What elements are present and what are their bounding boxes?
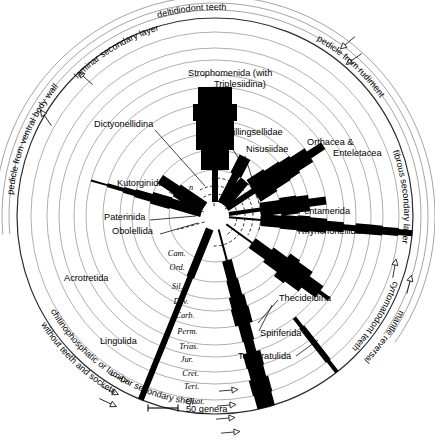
dashed-lineage-link-3 (177, 222, 204, 230)
taxon-label-lingulida: Lingulida (100, 336, 138, 346)
period-labels-group: Cam.Ord.Sil.Dev.Carb.Perm.Trias.Jur.Cret… (168, 249, 205, 407)
marker-bot-4-arrow-icon (221, 428, 240, 436)
marker-botleft-3-arrow-icon (98, 396, 118, 409)
period-label-cam: Cam. (168, 249, 186, 258)
annotation-without-teeth-sockets: without teeth and sockets (39, 319, 119, 396)
curved-annotations-group: deltidiodont teethlaminar secondary laye… (5, 2, 412, 407)
taxon-label-acrotretida: Acrotretida (64, 273, 109, 283)
diagram-canvas: deltidiodont teethlaminar secondary laye… (0, 0, 435, 446)
taxon-label-pentamerida: Pentamerida (298, 206, 351, 216)
taxon-label-strophomenida-line2: Triplesiidina) (214, 79, 266, 89)
period-label-sil: Sil. (172, 282, 183, 291)
taxon-label-spiriferida: Spiriferida (260, 328, 302, 338)
taxon-label-strophomenida: Strophomenida (with (188, 68, 272, 78)
annotation-laminar-secondary-layer: laminar secondary layer (72, 23, 160, 81)
annotation-deltidiodont-teeth: deltidiodont teeth (156, 2, 226, 20)
taxon-label-paterinida: Paterinida (104, 212, 146, 222)
center-symbol-group: n (189, 183, 193, 192)
marker-right-2-arrow-icon (404, 274, 414, 294)
period-label-tert: Tert. (184, 382, 199, 391)
paterinida-leader (150, 216, 196, 220)
period-label-dev: Dev. (173, 297, 189, 306)
period-label-perm: Perm. (176, 327, 197, 336)
period-label-cret: Cret. (182, 369, 199, 378)
period-label-carb: Carb. (175, 311, 194, 320)
period-label-trias: Trias. (179, 342, 198, 351)
scale-bar-label: 50 genera (186, 404, 228, 414)
taxon-label-nisusiidae: Nisusiidae (246, 144, 288, 154)
taxon-label-thecideidina: Thecideidina (279, 293, 332, 303)
taxon-label-billingsellidae: Billingsellidae (227, 127, 283, 137)
taxon-label-terebratulida: Terebratulida (238, 351, 292, 361)
taxon-label-orthacea: Orthacea & (307, 137, 353, 147)
taxon-label-rhynchonellida: Rhynchonellida (298, 226, 362, 236)
scale-bar-group: 50 genera (148, 404, 228, 414)
scale-bar (148, 405, 178, 412)
taxon-label-kutorginida: Kutorginida (117, 178, 164, 188)
radial-spindle-figure: deltidiodont teethlaminar secondary laye… (0, 0, 435, 446)
annotation-cyrtomatodont-teeth: cyrtomatodont teeth (350, 280, 401, 353)
period-label-ord: Ord. (170, 263, 185, 272)
thecideidina-leader (258, 300, 278, 323)
marker-bot-1-arrow-icon (219, 386, 238, 394)
taxon-label-dictyonellidina: Dictyonellidina (94, 119, 154, 129)
marker-bot-3-arrow-icon (216, 414, 235, 422)
period-label-jur: Jur. (181, 355, 193, 364)
center-symbol: n (189, 183, 193, 192)
taxon-label-obolellida: Obolellida (112, 226, 154, 236)
obolellida-leader (160, 223, 198, 234)
taxon-label-orthacea-line2: Enteletacea (333, 148, 382, 158)
